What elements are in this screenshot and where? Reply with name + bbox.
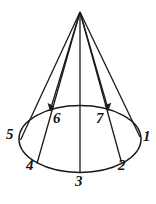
edge-apex-to-point-7 — [80, 12, 111, 111]
edge-apex-to-point-6 — [48, 12, 80, 111]
edge-apex-to-point-5 — [21, 12, 81, 140]
cone-diagram: 1 2 3 4 5 6 7 — [0, 0, 156, 204]
vertex-label-7: 7 — [96, 111, 104, 126]
edge-apex-to-point-1 — [80, 12, 140, 137]
vertex-label-5: 5 — [6, 127, 14, 142]
vertex-label-6: 6 — [53, 111, 61, 126]
vertex-label-4: 4 — [26, 158, 34, 173]
vertex-label-1: 1 — [143, 129, 151, 144]
vertex-label-3: 3 — [75, 174, 83, 189]
vertex-label-2: 2 — [118, 158, 126, 173]
